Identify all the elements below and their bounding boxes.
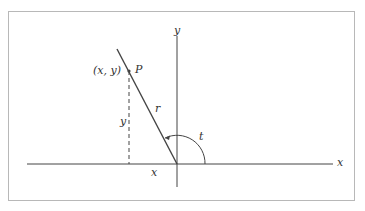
x-axis-label: x xyxy=(337,157,343,168)
vertical-leg-label: y xyxy=(120,116,126,127)
y-axis-label: y xyxy=(174,25,180,36)
point-coords-label: (x, y) xyxy=(93,65,121,76)
point-name-label: P xyxy=(135,64,142,75)
horizontal-leg-label: x xyxy=(151,167,157,178)
angle-label: t xyxy=(199,131,203,142)
angle-arrowhead xyxy=(165,136,170,141)
radius-line xyxy=(117,49,177,164)
radius-label: r xyxy=(155,103,160,114)
diagram-canvas xyxy=(0,0,365,211)
point-p xyxy=(127,69,130,72)
